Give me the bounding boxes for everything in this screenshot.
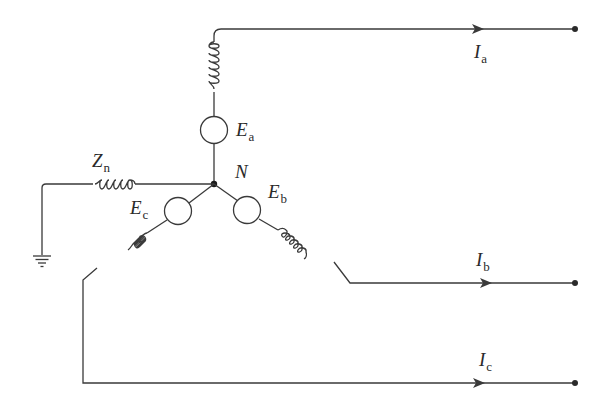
label-zn: Zn (92, 150, 111, 175)
inductor-b (278, 229, 306, 260)
label-ib: Ib (475, 249, 490, 274)
circuit-diagram: Ia Ea N Eb Ec Zn Ib Ic (0, 0, 615, 404)
phase-c-branch (83, 184, 578, 388)
label-ia: Ia (473, 41, 487, 66)
terminal-a (572, 26, 578, 32)
neutral-grounding-branch (33, 180, 214, 267)
source-a (201, 117, 228, 144)
label-ic: Ic (478, 349, 492, 374)
phase-a-branch (201, 24, 579, 184)
inductor-a (209, 42, 219, 89)
inductor-c (128, 233, 147, 250)
neutral-impedance-inductor (95, 180, 135, 189)
phase-a-line (214, 29, 575, 42)
label-ec: Ec (129, 197, 149, 222)
label-eb: Eb (267, 181, 287, 206)
label-n: N (234, 161, 249, 182)
source-b (234, 197, 261, 224)
terminal-b (572, 280, 578, 286)
source-c (165, 198, 192, 225)
ground-icon (33, 256, 51, 267)
terminal-c (572, 380, 578, 386)
label-ea: Ea (235, 119, 255, 144)
